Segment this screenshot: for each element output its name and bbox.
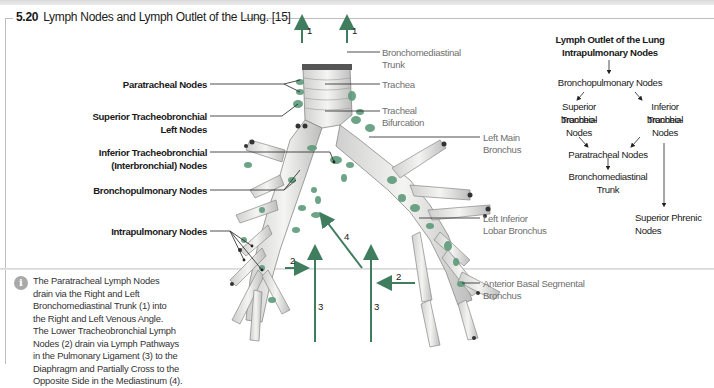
label-left-inferior-lobar-2: Lobar Bronchus — [483, 224, 547, 237]
flowchart-phrenic-2: Nodes — [635, 224, 661, 237]
arrow-number-3-right: 3 — [374, 300, 379, 313]
flowchart-bronchopulmonary: Bronchopulmonary Nodes — [545, 76, 675, 89]
arrow-number-1-right: 1 — [352, 24, 357, 37]
info-note: The Paratracheal Lymph Nodes drain via t… — [33, 275, 233, 388]
note-line: The Paratracheal Lymph Nodes — [33, 275, 233, 288]
note-line: the Right and Left Venous Angle. — [33, 313, 233, 326]
arrow-number-2-left: 2 — [290, 254, 295, 267]
note-line: in the Pulmonary Ligament (3) to the — [33, 350, 233, 363]
note-line: Nodes (2) drain via Lymph Pathways — [33, 338, 233, 351]
note-line: Diaphragm and Partially Cross to the — [33, 363, 233, 376]
label-superior-tracheobronchial-1: Superior Tracheobronchial — [92, 110, 207, 123]
flowchart-paratracheal: Paratracheal Nodes — [558, 148, 658, 161]
label-tracheal-bifurcation-2: Bifurcation — [382, 116, 424, 129]
note-line: The Lower Tracheobronchial Lymph — [33, 325, 233, 338]
label-superior-tracheobronchial-2: Left Nodes — [160, 123, 207, 136]
flowchart-trunk-2: Trunk — [558, 183, 658, 196]
flowchart-inferior-2: bronchial — [634, 113, 696, 126]
flowchart-trunk-1: Bronchomediastinal — [558, 170, 658, 183]
note-line: Opposite Side in the Mediastinum (4). — [33, 375, 233, 388]
label-bronchopulmonary-nodes: Bronchopulmonary Nodes — [93, 184, 207, 197]
label-bronchomediastinal-trunk-2: Trunk — [382, 58, 405, 71]
info-icon: i — [14, 276, 28, 290]
note-line: drain via the Right and Left — [33, 288, 233, 301]
arrow-number-2-right: 2 — [396, 270, 401, 283]
arrow-number-1-left: 1 — [307, 24, 312, 37]
flowchart-phrenic-1: Superior Phrenic — [635, 211, 702, 224]
flowchart-title-1: Lymph Outlet of the Lung — [545, 33, 675, 46]
arrow-number-4: 4 — [344, 230, 349, 243]
trachea-shape — [302, 64, 352, 128]
flowchart-superior-2: bronchial — [548, 113, 610, 126]
label-paratracheal-nodes: Paratracheal Nodes — [123, 78, 207, 91]
flowchart-title-2: Intrapulmonary Nodes — [545, 46, 675, 59]
flowchart-superior-3: Nodes — [548, 126, 610, 139]
flowchart-inferior-3: Nodes — [634, 126, 696, 139]
arrow-number-3-left: 3 — [318, 300, 323, 313]
note-line: Bronchomediastinal Trunk (1) into — [33, 300, 233, 313]
label-intrapulmonary-nodes: Intrapulmonary Nodes — [111, 225, 207, 238]
label-trachea: Trachea — [382, 78, 415, 91]
label-anterior-basal-segmental-2: Bronchus — [483, 289, 521, 302]
label-inferior-tracheobronchial-1: Inferior Tracheobronchial — [99, 146, 207, 159]
label-left-main-bronchus-2: Bronchus — [483, 143, 521, 156]
label-inferior-tracheobronchial-2: (Interbronchial) Nodes — [111, 159, 207, 172]
